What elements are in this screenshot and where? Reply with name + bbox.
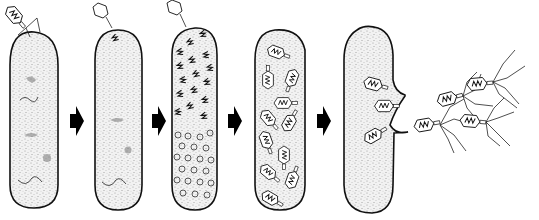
released-phage-icons xyxy=(413,50,525,153)
stage-1-cell xyxy=(10,32,58,208)
stage-2-cell xyxy=(95,30,142,210)
phage-empty-capsid-icon xyxy=(167,0,186,27)
lytic-cycle-diagram xyxy=(0,0,539,220)
arrow-3-icon xyxy=(228,106,242,136)
arrow-1-icon xyxy=(70,106,84,136)
arrow-4-icon xyxy=(317,106,331,136)
stage-5-lysed-cell xyxy=(344,26,408,213)
arrow-2-icon xyxy=(152,106,166,136)
